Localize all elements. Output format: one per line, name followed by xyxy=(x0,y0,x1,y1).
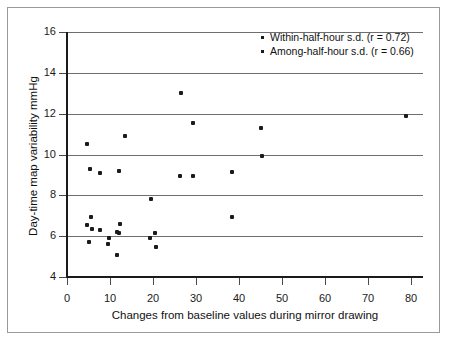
data-point xyxy=(98,171,102,175)
x-axis-tick xyxy=(282,278,283,285)
y-axis-tick xyxy=(59,114,66,115)
data-point xyxy=(98,228,102,232)
x-axis-title: Changes from baseline values during mirr… xyxy=(67,309,423,321)
x-axis-label: 40 xyxy=(233,292,245,304)
x-axis-label: 0 xyxy=(64,292,70,304)
x-axis-tick xyxy=(368,278,369,285)
gridline xyxy=(67,195,423,196)
chart-figure: 46810121416 01020304050607080 Within-hal… xyxy=(0,0,449,342)
legend: Within-half-hour s.d. (r = 0.72)Among-ha… xyxy=(258,30,426,58)
y-axis-title: Day-time map variability mmHg xyxy=(27,41,39,271)
data-point xyxy=(153,231,157,235)
y-axis-line xyxy=(66,32,68,278)
y-axis-tick xyxy=(59,32,66,33)
y-axis-tick xyxy=(59,236,66,237)
legend-label: Among-half-hour s.d. (r = 0.66) xyxy=(270,45,414,57)
legend-label: Within-half-hour s.d. (r = 0.72) xyxy=(270,31,410,43)
legend-marker-icon xyxy=(261,50,264,53)
x-axis-label: 20 xyxy=(147,292,159,304)
data-point xyxy=(148,236,152,240)
data-point xyxy=(85,142,89,146)
data-point xyxy=(178,174,182,178)
data-point xyxy=(149,197,153,201)
gridline xyxy=(67,114,423,115)
gridline xyxy=(67,236,423,237)
gridline xyxy=(67,276,423,278)
x-axis-tick xyxy=(67,278,68,285)
data-point xyxy=(106,242,110,246)
x-axis-tick xyxy=(411,278,412,285)
data-point xyxy=(191,174,195,178)
x-axis-tick xyxy=(325,278,326,285)
x-axis-tick xyxy=(196,278,197,285)
data-point xyxy=(118,222,122,226)
y-axis-tick xyxy=(59,195,66,196)
y-axis-tick xyxy=(59,277,66,278)
data-point xyxy=(179,91,183,95)
data-point xyxy=(117,169,121,173)
x-axis-label: 10 xyxy=(104,292,116,304)
y-axis-label: 4 xyxy=(34,271,56,282)
data-point xyxy=(230,170,234,174)
y-axis-tick xyxy=(59,73,66,74)
x-axis-tick xyxy=(239,278,240,285)
data-point xyxy=(88,167,92,171)
data-point xyxy=(85,223,89,227)
legend-item: Within-half-hour s.d. (r = 0.72) xyxy=(258,30,426,44)
x-axis-tick xyxy=(110,278,111,285)
scatter-plot: 46810121416 01020304050607080 Within-hal… xyxy=(0,0,449,342)
x-axis-label: 80 xyxy=(405,292,417,304)
data-point xyxy=(117,231,121,235)
data-point xyxy=(115,253,119,257)
x-axis-label: 50 xyxy=(276,292,288,304)
data-point xyxy=(89,215,93,219)
x-axis-label: 60 xyxy=(319,292,331,304)
gridline xyxy=(67,73,423,74)
legend-marker-icon xyxy=(261,36,264,39)
data-point xyxy=(191,121,195,125)
x-axis-tick xyxy=(153,278,154,285)
data-point xyxy=(260,154,264,158)
data-point xyxy=(87,240,91,244)
data-point xyxy=(123,134,127,138)
data-point xyxy=(230,215,234,219)
gridline xyxy=(67,155,423,156)
data-point xyxy=(404,114,408,118)
data-point xyxy=(154,245,158,249)
y-axis-tick xyxy=(59,155,66,156)
data-point xyxy=(107,236,111,240)
data-point xyxy=(90,227,94,231)
legend-item: Among-half-hour s.d. (r = 0.66) xyxy=(258,44,426,58)
x-axis-label: 70 xyxy=(362,292,374,304)
data-point xyxy=(259,126,263,130)
x-axis-label: 30 xyxy=(190,292,202,304)
y-axis-label: 16 xyxy=(34,26,56,37)
